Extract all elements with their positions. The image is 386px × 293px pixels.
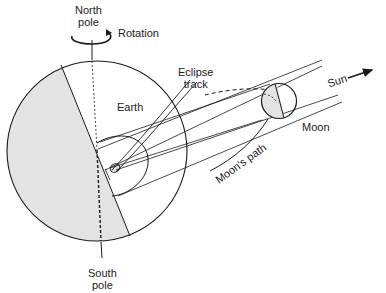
north-pole-label-line1: North — [75, 4, 102, 16]
moon-path-dashed — [205, 89, 270, 95]
sun-direction-arrow-icon — [348, 70, 372, 78]
eclipse-track-label-line2: track — [178, 78, 213, 90]
earth-label: Earth — [117, 101, 143, 113]
rotation-label: Rotation — [118, 27, 159, 39]
eclipse-track-label-line1: Eclipse — [178, 66, 213, 78]
eclipse-track-lines — [112, 80, 197, 172]
eclipse-track-label: Eclipse track — [178, 66, 213, 90]
earth-night-side — [0, 40, 132, 260]
rotation-arrow-icon — [72, 33, 111, 44]
diagram-canvas — [0, 0, 386, 293]
south-pole-label: South pole — [88, 267, 117, 291]
moon-label: Moon — [302, 121, 330, 133]
south-axis-bottom — [101, 242, 102, 258]
axis-dashed-north — [92, 61, 97, 150]
north-pole-label-line2: pole — [75, 16, 102, 28]
south-pole-label-line1: South — [88, 267, 117, 279]
north-pole-label: North pole — [75, 4, 102, 28]
south-pole-label-line2: pole — [88, 279, 117, 291]
moon — [250, 80, 297, 125]
eclipse-diagram: North pole Rotation Earth Eclipse track … — [0, 0, 386, 293]
